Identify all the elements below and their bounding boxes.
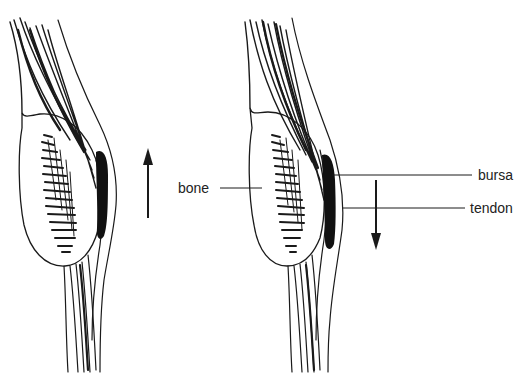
right-cancellous-bone: [272, 135, 304, 252]
left-bone-outline: [19, 113, 102, 266]
arrow-up-icon: [143, 148, 153, 218]
right-tendon-fibers: [288, 255, 320, 372]
bursa-label: bursa: [478, 168, 513, 182]
left-muscle-fibers: [10, 18, 96, 188]
right-bone-outline: [249, 108, 324, 266]
bursa-diagram: [0, 0, 527, 380]
left-bursa: [96, 151, 108, 239]
left-cancellous-bone: [42, 135, 76, 252]
bone-label: bone: [178, 181, 209, 195]
arrow-down-icon: [371, 180, 381, 250]
tendon-label: tendon: [470, 201, 513, 215]
